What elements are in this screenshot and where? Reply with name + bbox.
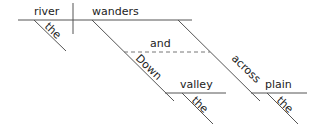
phrase1-preposition: Down <box>133 52 164 83</box>
predicate-word: wanders <box>92 5 139 18</box>
subject-word: river <box>34 5 60 18</box>
sentence-diagram: river the wanders and Down valley the ac… <box>0 0 324 131</box>
phrase2-preposition: across <box>229 52 264 86</box>
phrase1-modifier: the <box>189 94 211 116</box>
phrase1-object: valley <box>180 78 213 91</box>
phrase2-modifier: the <box>274 94 296 116</box>
subject-modifier-word: the <box>42 20 64 42</box>
phrase2-object: plain <box>265 78 292 91</box>
diagram-canvas: river the wanders and Down valley the ac… <box>0 0 324 131</box>
conjunction-word: and <box>150 37 171 50</box>
